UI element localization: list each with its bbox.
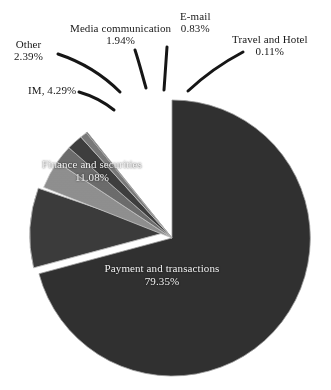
slice-label-payment-and-transactions-value: 79.35%: [82, 275, 242, 288]
slice-label-media-communication-name: Media communication: [70, 22, 171, 34]
slice-label-email: E-mail 0.83%: [180, 10, 211, 35]
slice-label-finance-and-securities-value: 11.08%: [27, 171, 157, 184]
slice-label-payment-and-transactions-name: Payment and transactions: [82, 262, 242, 275]
slice-label-finance-and-securities-name: Finance and securities: [27, 158, 157, 171]
pie-chart: Other 2.39% Media communication 1.94% E-…: [0, 0, 331, 390]
leader-line-im: [79, 92, 114, 110]
leader-line-travel-and-hotel: [188, 52, 243, 91]
slice-label-travel-and-hotel-name: Travel and Hotel: [232, 33, 308, 45]
slice-label-other-value: 2.39%: [14, 50, 43, 62]
slice-label-travel-and-hotel: Travel and Hotel 0.11%: [232, 33, 308, 58]
slice-label-media-communication: Media communication 1.94%: [70, 22, 171, 47]
leader-lines: [58, 47, 243, 110]
slice-label-email-name: E-mail: [180, 10, 211, 22]
slice-label-media-communication-value: 1.94%: [70, 34, 171, 46]
slice-label-finance-and-securities: Finance and securities 11.08%: [27, 158, 157, 183]
slice-label-other-name: Other: [14, 38, 43, 50]
slice-label-email-value: 0.83%: [180, 22, 211, 34]
slice-label-payment-and-transactions: Payment and transactions 79.35%: [82, 262, 242, 287]
leader-line-media-communication: [135, 50, 146, 88]
slice-label-im-name: IM, 4.29%: [28, 84, 76, 96]
slice-label-travel-and-hotel-value: 0.11%: [232, 45, 308, 57]
slice-label-im: IM, 4.29%: [28, 84, 76, 96]
slice-label-other: Other 2.39%: [14, 38, 43, 63]
pie-chart-canvas: [0, 0, 331, 390]
leader-line-email: [164, 47, 167, 90]
